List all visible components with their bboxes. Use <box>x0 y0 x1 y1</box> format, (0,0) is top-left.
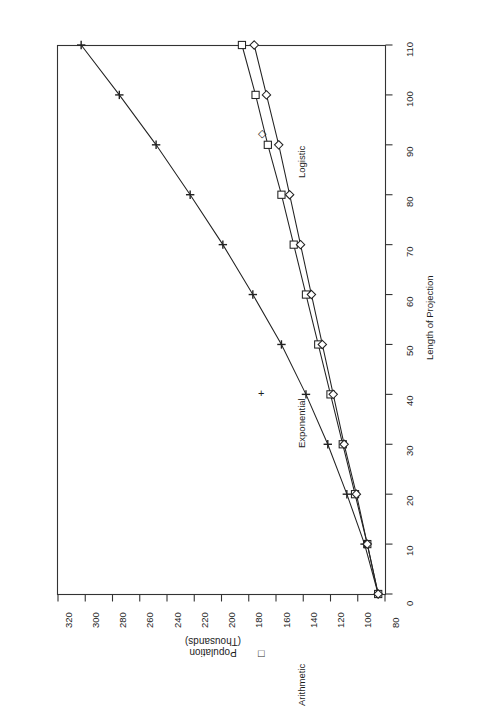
population-tick-label: 140 <box>308 612 319 628</box>
projection-tick-label: 40 <box>404 396 415 407</box>
marker-square <box>264 141 271 148</box>
population-tick-label: 280 <box>117 612 128 628</box>
legend-marker-logistic: ◇ <box>258 128 266 139</box>
legend-marker-exponential: + <box>258 388 264 399</box>
projection-tick-label: 20 <box>404 496 415 507</box>
projection-tick-label: 60 <box>404 296 415 307</box>
population-tick-label: 100 <box>362 612 373 628</box>
population-tick-label: 160 <box>281 612 292 628</box>
population-tick-label: 300 <box>90 612 101 628</box>
projection-tick-label: 10 <box>404 546 415 557</box>
population-tick-label: 180 <box>253 612 264 628</box>
marker-square <box>252 91 259 98</box>
plot-frame <box>58 46 386 595</box>
series-markers-exponential <box>77 41 382 598</box>
population-tick-label: 240 <box>172 612 183 628</box>
marker-diamond <box>275 141 283 149</box>
population-tick-label: 320 <box>63 612 74 628</box>
marker-square <box>238 41 245 48</box>
marker-diamond <box>262 91 270 99</box>
projection-tick-label: 80 <box>404 196 415 207</box>
population-tick-label: 120 <box>335 612 346 628</box>
figure-page: Figure 8.1 Population Projections 320300… <box>0 0 480 722</box>
population-axis-ticks <box>58 595 385 602</box>
legend-marker-arithmetic: □ <box>258 648 265 659</box>
series-line-exponential <box>81 45 378 594</box>
legend-label-arithmetic: Arithmetic <box>296 664 307 706</box>
series-markers-logistic <box>250 41 382 598</box>
marker-diamond <box>285 191 293 199</box>
projection-tick-label: 70 <box>404 246 415 257</box>
population-axis-title-line2: (Thousands) <box>148 636 278 647</box>
projection-tick-label: 50 <box>404 346 415 357</box>
projection-tick-label: 0 <box>404 601 415 606</box>
projection-tick-label: 90 <box>404 146 415 157</box>
projection-tick-label: 100 <box>404 91 415 107</box>
data-series-layer <box>77 41 382 598</box>
population-tick-label: 200 <box>226 612 237 628</box>
projection-tick-label: 110 <box>404 42 415 57</box>
population-tick-label: 220 <box>199 612 210 628</box>
population-tick-label: 260 <box>144 612 155 628</box>
marker-diamond <box>250 41 258 49</box>
projection-tick-label: 30 <box>404 446 415 457</box>
projection-axis-title: Length of Projection <box>424 275 435 360</box>
population-tick-label: 80 <box>390 617 401 628</box>
legend-label-exponential: Exponential <box>296 398 307 448</box>
marker-square <box>278 191 285 198</box>
legend-label-logistic: Logistic <box>296 146 307 178</box>
projection-axis-ticks <box>386 45 393 594</box>
